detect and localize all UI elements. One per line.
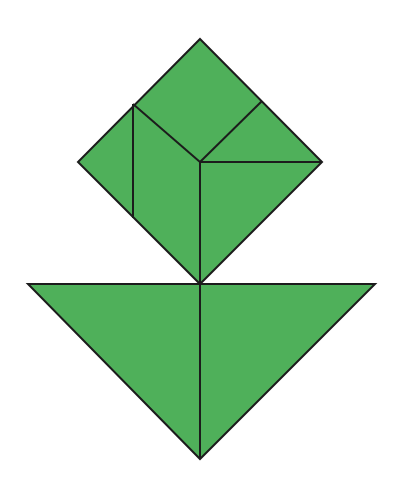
tangram-figure: Tangram figure Green tangram composition… <box>0 0 397 490</box>
lower-triangle-shape <box>28 284 375 459</box>
figure-canvas: Tangram figure Green tangram composition… <box>0 0 397 490</box>
